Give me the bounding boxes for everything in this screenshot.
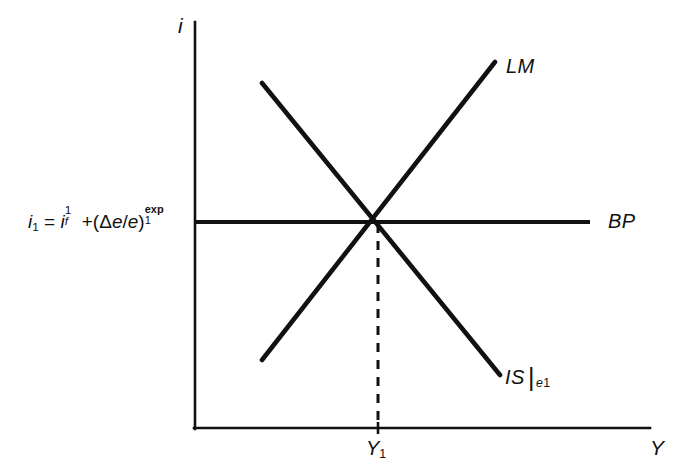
expr-e-denom: e [128,211,139,232]
diagram-canvas [0,0,700,472]
expr-foreign-script: 1f [65,209,77,228]
expr-exp-sub: 1 [145,215,151,226]
interest-rate-expression: i1 = i1f +(Δe/e)exp1 [28,209,183,233]
expr-delta: Δ [99,211,112,232]
expr-equals: = [44,211,55,232]
equilibrium-tick-label-sub: 1 [379,447,386,461]
expr-exp-script: exp1 [145,209,183,228]
expr-lhs-sub: 1 [32,220,39,233]
expr-foreign-sub: f [65,215,68,227]
equilibrium-tick-label: Y1 [366,438,386,461]
expr-e-numer: e [112,211,123,232]
is-curve-label-bar: | [525,365,536,390]
lm-curve-label: LM [506,56,535,76]
bp-curve-label: BP [608,211,636,231]
is-curve-label-sub-index: 1 [543,376,550,390]
expr-plus-paren: +( [82,211,99,232]
is-curve-label-main: IS [505,366,525,388]
is-curve [262,83,500,375]
is-curve-label: IS|e1 [505,363,551,390]
y-axis-label: i [178,15,183,36]
equilibrium-tick-label-main: Y [366,437,379,459]
is-lm-bp-diagram: i Y Y1 LM BP IS|e1 i1 = i1f +(Δe/e)exp1 [0,0,700,472]
x-axis-label: Y [650,437,664,458]
